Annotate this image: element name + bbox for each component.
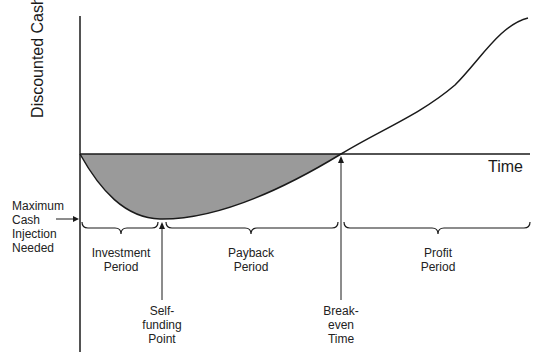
label-line: Point <box>132 332 192 346</box>
investment-period-label: Investment Period <box>80 246 162 274</box>
label-line: Break- <box>311 304 371 318</box>
arrow-icon <box>338 156 344 163</box>
y-axis-label: Discounted Cash <box>29 0 47 127</box>
arrow-icon <box>159 222 165 229</box>
cash-curve-diagram <box>0 0 544 352</box>
breakeven-label: Break- even Time <box>311 304 371 346</box>
label-line: Time <box>311 332 371 346</box>
label-line: Profit <box>397 246 479 260</box>
label-line: Needed <box>12 241 64 255</box>
label-line: funding <box>132 318 192 332</box>
negative-cash-area <box>80 154 341 219</box>
label-line: Injection <box>12 227 64 241</box>
arrow-icon <box>73 216 79 222</box>
label-line: Period <box>397 260 479 274</box>
x-axis-label: Time <box>488 158 523 176</box>
payback-period-label: Payback Period <box>210 246 292 274</box>
label-line: Self- <box>132 304 192 318</box>
investment-brace <box>82 222 158 234</box>
profit-brace <box>344 222 530 234</box>
payback-brace <box>166 222 338 234</box>
label-line: Period <box>210 260 292 274</box>
label-line: Investment <box>80 246 162 260</box>
max-cash-label: Maximum Cash Injection Needed <box>12 199 64 255</box>
label-line: Cash <box>12 213 64 227</box>
profit-period-label: Profit Period <box>397 246 479 274</box>
label-line: Maximum <box>12 199 64 213</box>
self-funding-label: Self- funding Point <box>132 304 192 346</box>
label-line: Period <box>80 260 162 274</box>
label-line: Payback <box>210 246 292 260</box>
label-line: even <box>311 318 371 332</box>
